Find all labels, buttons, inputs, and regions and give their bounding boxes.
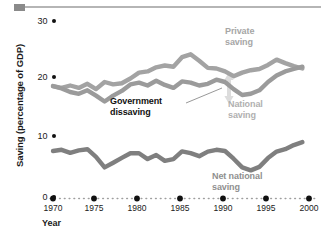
x-tick-label-1985: 1985 <box>160 203 200 213</box>
x-tick-label-1980: 1980 <box>117 203 157 213</box>
national-saving-label: National saving <box>228 99 263 120</box>
chart-figure: Saving (percentage of GDP) 30 20 10 0 <box>0 0 323 239</box>
private-saving-label: Private saving <box>225 26 254 47</box>
x-axis-label: Year <box>42 218 61 228</box>
government-dissaving-label: Government dissaving <box>110 96 162 117</box>
x-tick-label-1990: 1990 <box>203 203 243 213</box>
x-tick-label-1970: 1970 <box>33 203 73 213</box>
series-line-net-national-saving <box>53 142 302 170</box>
x-tick-label-2000: 2000 <box>289 203 323 213</box>
x-tick-label-1995: 1995 <box>246 203 286 213</box>
net-national-saving-label: Net national saving <box>212 171 262 192</box>
x-tick-label-1975: 1975 <box>74 203 114 213</box>
government-dissaving-leader-line <box>186 88 222 103</box>
